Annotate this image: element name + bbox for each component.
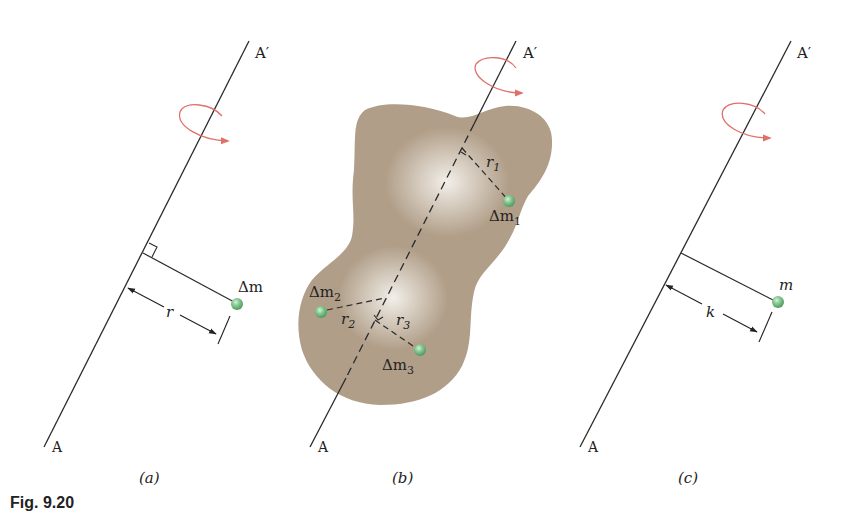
axis-top-label: A′ — [796, 44, 812, 62]
right-angle-icon — [149, 243, 157, 257]
figure-caption: Fig. 9.20 — [10, 494, 74, 512]
mass-ball-icon — [503, 195, 515, 207]
axis-bottom-label: A — [317, 439, 329, 455]
axis-bottom-label: A — [587, 439, 599, 455]
rotation-axis-line — [580, 41, 791, 447]
figure-canvas: A′ A r Δm (a) A′ A — [0, 0, 852, 520]
axis-top-label: A′ — [522, 44, 538, 62]
distance-label: r — [166, 303, 174, 321]
body-highlight — [338, 246, 448, 350]
panel-sublabel: (c) — [678, 469, 698, 487]
rotation-arrow-icon — [180, 105, 228, 141]
rotation-axis-line — [44, 41, 249, 447]
dimension-line — [666, 285, 702, 304]
mass-label: Δm — [238, 278, 263, 296]
dimension-tick — [759, 312, 772, 342]
panel-b: A′ A r1 Δm1 Δm2 r2 r3 Δm3 — [298, 41, 552, 487]
radius-line — [681, 253, 775, 301]
dimension-line — [723, 314, 757, 332]
dimension-line — [128, 288, 164, 307]
mass-ball-icon — [414, 344, 426, 356]
mass-ball-icon — [231, 298, 243, 310]
panel-c: A′ A k m (c) — [580, 41, 812, 487]
panel-sublabel: (a) — [139, 469, 160, 487]
distance-label: k — [706, 303, 715, 321]
dimension-tick — [218, 316, 230, 344]
axis-top-label: A′ — [254, 44, 270, 62]
rotation-axis-line — [310, 378, 346, 447]
radius-line — [143, 253, 236, 303]
mass-label: m — [779, 276, 793, 294]
mass-ball-icon — [315, 306, 327, 318]
mass-ball-icon — [772, 296, 784, 308]
panel-sublabel: (b) — [392, 469, 413, 487]
panel-a: A′ A r Δm (a) — [44, 41, 270, 487]
rotation-arrow-icon — [722, 103, 770, 138]
axis-bottom-label: A — [51, 439, 63, 455]
dimension-line — [180, 315, 216, 334]
